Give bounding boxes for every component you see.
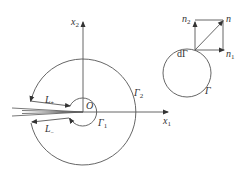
lower-crack-face-path [32, 118, 69, 122]
gamma2-label: Γ2 [133, 87, 144, 100]
origin-label: O [86, 100, 93, 111]
n-label: n [226, 13, 231, 24]
d-gamma-label: dΓ [177, 48, 188, 59]
coordinate-axes [83, 22, 168, 112]
n2-label: n2 [182, 13, 191, 26]
x1-axis-label: x1 [162, 115, 171, 128]
normal-vector-inset [163, 20, 224, 97]
gamma1-label: Γ1 [97, 117, 108, 130]
n1-label: n1 [226, 48, 235, 61]
inset-gamma-label: Γ [204, 85, 211, 96]
l-minus-label: L− [44, 123, 55, 135]
n-vector [195, 21, 223, 50]
x2-axis-label: x2 [70, 16, 79, 29]
j-integral-contour-diagram: x2 x1 O Γ2 Γ1 L+ L− n2 n n1 dΓ Γ [0, 0, 244, 174]
crack-lines [12, 108, 83, 116]
l-plus-label: L+ [44, 94, 55, 106]
